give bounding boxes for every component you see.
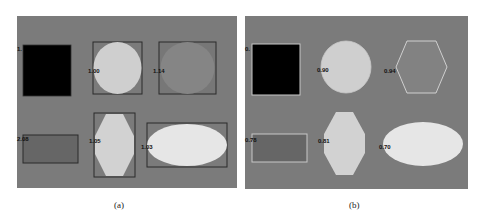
shape-label: 0.94 — [384, 68, 396, 74]
black-square — [23, 45, 71, 96]
black-square — [252, 44, 300, 95]
octagon-shape — [324, 112, 365, 175]
shape-label: 1.14 — [153, 68, 165, 74]
ellipse-shape — [147, 124, 227, 166]
shape-label: 0. — [245, 46, 250, 52]
hexagon-shape — [396, 41, 447, 93]
shape-label: 0.81 — [318, 138, 330, 144]
shape-label: 1.00 — [88, 68, 100, 74]
shape-label: 0.90 — [317, 67, 329, 73]
dark-rectangle — [252, 134, 307, 162]
panel-a: 1. 1.00 1.14 2.08 1.05 1.03 — [17, 16, 237, 188]
shape-label: 1.05 — [89, 138, 101, 144]
shape-label: 0.78 — [245, 137, 257, 143]
ellipse-shape — [383, 122, 463, 166]
panel-b-shapes — [245, 16, 468, 189]
shape-label: 2.08 — [17, 136, 29, 142]
panel-a-shapes — [17, 16, 237, 188]
faint-circle-shape — [161, 42, 215, 94]
caption-b: (b) — [349, 200, 360, 210]
shape-label: 1.03 — [141, 144, 153, 150]
dark-rectangle — [23, 135, 78, 163]
shape-label: 1. — [17, 46, 22, 52]
panel-b: 0. 0.90 0.94 0.78 0.81 0.70 — [245, 16, 468, 189]
circle-shape — [94, 42, 142, 94]
shape-label: 0.70 — [379, 144, 391, 150]
caption-a: (a) — [114, 200, 124, 210]
